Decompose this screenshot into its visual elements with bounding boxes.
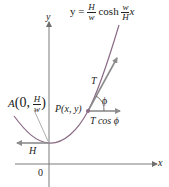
angle-phi-label: ϕ: [102, 96, 107, 106]
frac1-den: w: [87, 13, 96, 22]
equation-func: cosh: [98, 5, 118, 17]
point-A-open: (0,: [15, 95, 30, 110]
catenary-diagram: [0, 0, 169, 187]
point-A-label: A(0, H w ): [8, 95, 46, 114]
equation-var: x: [129, 5, 134, 17]
catenary-equation: y = H w cosh w H x: [70, 3, 134, 22]
label-A-leader: [34, 110, 48, 141]
equation-lhs: y =: [70, 5, 84, 17]
point-A-name: A: [8, 97, 15, 109]
point-A-frac: H w: [33, 95, 42, 114]
point-A-close: ): [41, 95, 46, 110]
point-P: [86, 109, 90, 113]
equation-frac-H-over-w: H w: [87, 3, 96, 22]
tcosphi-label: T cos ϕ: [90, 116, 119, 126]
point-A-frac-den: w: [33, 105, 42, 114]
tension-T-label: T: [91, 76, 97, 86]
point-P-label: P(x, y): [55, 104, 82, 114]
force-H-label: H: [29, 146, 36, 156]
x-axis-label: x: [158, 158, 162, 168]
origin-label: 0: [38, 168, 43, 178]
y-axis-label: y: [46, 12, 50, 22]
